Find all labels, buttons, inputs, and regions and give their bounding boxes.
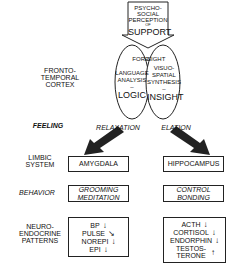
- behavior-right-line: CONTROL: [176, 186, 210, 194]
- cortex-label: FRONTO- TEMPORAL CORTEX: [38, 67, 82, 88]
- support-line: SUPPORT: [128, 27, 168, 37]
- right-hemisphere: SIGHT VISUO- SPATIAL SYNTHESIS – INSIGHT: [147, 56, 181, 102]
- ne-right-item: TESTOS-TERONE ↑: [174, 245, 215, 259]
- right-function-line: VISUO-: [147, 65, 181, 72]
- behavior-label: BEHAVIOR: [14, 189, 60, 196]
- hormone-name: ACTH: [181, 221, 200, 228]
- ne-left-item: PULSE ↘: [82, 230, 115, 237]
- hormone-name: PULSE: [82, 230, 105, 237]
- cortex-label-line: FRONTO-: [38, 67, 82, 74]
- right-hemisphere-header: SIGHT: [147, 56, 181, 63]
- relaxation-label: RELAXATION: [90, 124, 146, 131]
- left-function-line: ANALYSIS: [115, 77, 149, 84]
- neuroendocrine-right-box: ACTH ↓ CORTISOL ↓ ENDORPHIN ↓ TESTOS-TER…: [163, 217, 226, 263]
- control-bonding-box: CONTROL BONDING: [163, 185, 224, 202]
- behavior-right-line: BONDING: [177, 194, 210, 202]
- ne-right-item: ACTH ↓: [181, 221, 207, 228]
- hormone-name: BP: [90, 222, 99, 229]
- ne-left-item: BP ↓: [90, 222, 106, 229]
- limbic-label-line: LIMBIC: [22, 154, 58, 161]
- ne-right-item: ENDORPHIN ↓: [170, 237, 219, 244]
- neuroendocrine-label: NEURO- ENDOCRINE PATTERNS: [14, 223, 66, 244]
- behavior-left-line: MEDITATION: [77, 194, 119, 202]
- down-arrow-icon: ↓: [204, 221, 208, 228]
- cortex-label-line: TEMPORAL: [38, 74, 82, 81]
- grooming-meditation-box: GROOMING MEDITATION: [68, 185, 129, 202]
- behavior-left-line: GROOMING: [79, 186, 119, 194]
- right-function-line: SPATIAL: [147, 72, 181, 79]
- feeling-label: FEELING: [28, 122, 68, 129]
- right-function-line: SYNTHESIS: [147, 79, 181, 86]
- limbic-label: LIMBIC SYSTEM: [22, 154, 58, 168]
- left-hemisphere-header: FORE: [115, 56, 149, 63]
- ne-right-item: CORTISOL ↓: [173, 229, 216, 236]
- left-function-line: LANGUAGE: [115, 70, 149, 77]
- up-arrow-icon: ↑: [211, 249, 215, 256]
- down-arrow-icon: ↓: [103, 222, 107, 229]
- hormone-name: TESTOS-TERONE: [174, 245, 208, 259]
- down-arrow-icon: ↓: [212, 229, 216, 236]
- down-arrow-icon: ↓: [104, 246, 108, 253]
- right-mode: INSIGHT: [147, 92, 181, 102]
- down-right-arrow-icon: ↘: [108, 230, 115, 237]
- hippocampus-box: HIPPOCAMPUS: [163, 156, 224, 172]
- neuroendocrine-label-line: ENDOCRINE: [14, 230, 66, 237]
- limbic-label-line: SYSTEM: [22, 161, 58, 168]
- neuroendocrine-left-box: BP ↓ PULSE ↘ NOREPI ↓ EPI ↓: [68, 217, 129, 257]
- down-arrow-icon: ↓: [215, 237, 219, 244]
- left-mode: LOGIC: [115, 90, 149, 100]
- amygdala-box: AMYGDALA: [68, 156, 129, 172]
- hormone-name: ENDORPHIN: [170, 237, 212, 244]
- hippocampus-label: HIPPOCAMPUS: [168, 160, 220, 168]
- neuroendocrine-label-line: PATTERNS: [14, 237, 66, 244]
- hormone-name: EPI: [89, 246, 100, 253]
- hormone-name: NOREPI: [82, 238, 109, 245]
- support-input: PSYCHO- SOCIAL PERCEPTION OF SUPPORT: [128, 5, 168, 37]
- hormone-name: CORTISOL: [173, 229, 209, 236]
- neuroendocrine-label-line: NEURO-: [14, 223, 66, 230]
- down-arrow-icon: ↓: [111, 238, 115, 245]
- cortex-label-line: CORTEX: [38, 81, 82, 88]
- ne-left-item: NOREPI ↓: [82, 238, 116, 245]
- elation-label: ELATION: [154, 124, 198, 131]
- ne-left-item: EPI ↓: [89, 246, 107, 253]
- amygdala-label: AMYGDALA: [79, 160, 118, 168]
- left-hemisphere: FORE LANGUAGE ANALYSIS – LOGIC: [115, 56, 149, 100]
